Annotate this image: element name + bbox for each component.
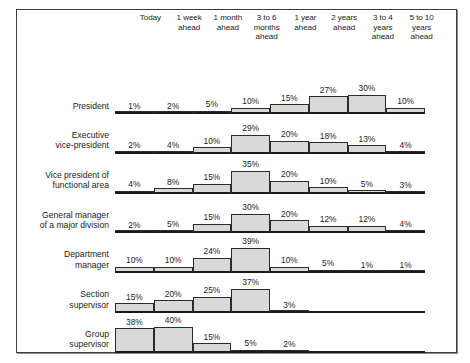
bar-value-label: 37% — [231, 278, 270, 287]
bar-value-label: 10% — [386, 97, 425, 106]
row-label-group-supervisor: Group supervisor — [0, 329, 115, 350]
bar-value-label: 10% — [193, 137, 232, 146]
column-header-1: Today — [131, 13, 170, 23]
bar-value-label: 12% — [309, 215, 348, 224]
bar-value-label: 15% — [193, 173, 232, 182]
bar-value-label: 5% — [231, 339, 270, 348]
bar-value-label: 12% — [348, 215, 387, 224]
bar-value-label: 30% — [231, 203, 270, 212]
column-header-3: 1 month ahead — [209, 13, 248, 32]
bar-value-label: 20% — [270, 130, 309, 139]
column-header-8: 5 to 10 years ahead — [402, 13, 441, 42]
column-header-2: 1 week ahead — [170, 13, 209, 32]
bar-7-1 — [115, 328, 154, 353]
bar-value-label: 29% — [231, 124, 270, 133]
bar-7-8 — [386, 351, 425, 353]
bar-value-label: 10% — [309, 177, 348, 186]
bar-value-label: 39% — [231, 237, 270, 246]
bar-value-label: 20% — [270, 170, 309, 179]
chart-row: Group supervisor38%40%15%5%2% — [0, 307, 441, 353]
bar-value-label: 24% — [193, 247, 232, 256]
bar-value-label: 40% — [154, 316, 193, 325]
bar-value-label: 2% — [270, 340, 309, 349]
bar-7-5 — [270, 350, 309, 353]
bar-value-label: 38% — [115, 318, 154, 327]
bar-value-label: 15% — [193, 213, 232, 222]
bar-7-2 — [154, 327, 193, 353]
bar-value-label: 27% — [309, 86, 348, 95]
bar-value-label: 20% — [154, 290, 193, 299]
column-header-7: 3 to 4 years ahead — [364, 13, 403, 42]
bar-value-label: 15% — [193, 333, 232, 342]
column-header-6: 2 years ahead — [325, 13, 364, 32]
bar-value-label: 18% — [309, 132, 348, 141]
chart-figure: Today1 week ahead1 month ahead3 to 6 mon… — [0, 0, 470, 363]
bar-7-3 — [193, 343, 232, 353]
bar-value-label: 13% — [348, 135, 387, 144]
column-header-row: Today1 week ahead1 month ahead3 to 6 mon… — [131, 13, 441, 63]
bar-value-label: 10% — [154, 256, 193, 265]
bar-value-label: 15% — [270, 94, 309, 103]
bar-value-label: 15% — [115, 293, 154, 302]
bar-value-label: 10% — [270, 256, 309, 265]
bar-value-label: 10% — [231, 97, 270, 106]
bar-7-7 — [348, 351, 387, 353]
bar-value-label: 20% — [270, 210, 309, 219]
bar-value-label: 30% — [348, 84, 387, 93]
bar-7-6 — [309, 351, 348, 353]
bar-value-label: 10% — [115, 256, 154, 265]
bar-7-4 — [231, 350, 270, 353]
row-plot: 38%40%15%5%2% — [115, 307, 425, 353]
column-header-4: 3 to 6 months ahead — [247, 13, 286, 42]
bar-value-label: 35% — [231, 160, 270, 169]
bar-value-label: 25% — [193, 286, 232, 295]
column-header-5: 1 year ahead — [286, 13, 325, 32]
bar-value-label: 8% — [154, 178, 193, 187]
